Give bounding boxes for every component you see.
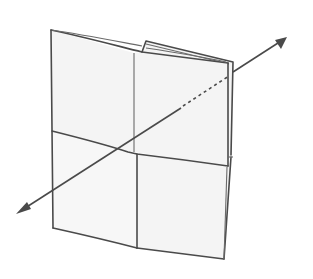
axis-back-segment (233, 43, 278, 72)
folded-paper-diagram (0, 0, 313, 279)
arrowhead-down-left-icon (16, 202, 31, 214)
panel-lower-right (137, 154, 231, 259)
panel-upper-right (134, 52, 228, 166)
